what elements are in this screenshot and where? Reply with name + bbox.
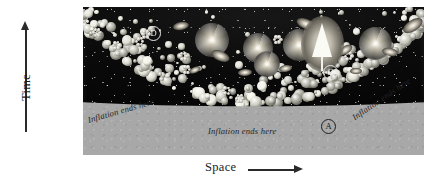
particle-cluster-node: [116, 46, 120, 50]
particle-cluster-node: [140, 43, 143, 46]
particle: [305, 92, 315, 102]
particle: [236, 50, 240, 54]
particle-cluster-node: [186, 65, 189, 68]
particle-cluster-node: [137, 43, 140, 46]
particle: [143, 56, 152, 65]
galaxy-spiral: [254, 51, 280, 77]
particle: [327, 82, 336, 91]
callout-label-a: A: [321, 119, 336, 134]
particle: [165, 41, 172, 48]
particle: [277, 93, 283, 99]
light-cone-icon: [312, 23, 332, 57]
particle-cluster-node: [227, 92, 230, 95]
particle: [100, 22, 105, 27]
particle: [229, 96, 232, 99]
particle-cluster-node: [274, 41, 277, 44]
particle-cluster-node: [237, 100, 240, 103]
particle: [205, 93, 211, 99]
right-arrow-icon: [294, 165, 303, 173]
inflation-note-center: Inflation ends here: [208, 126, 276, 136]
particle: [158, 72, 161, 75]
particle-cluster-node: [97, 28, 101, 32]
callout-label-c: C: [323, 65, 338, 80]
particle: [113, 33, 117, 37]
particle: [191, 82, 194, 85]
particle: [221, 97, 229, 105]
particle: [120, 29, 126, 35]
particle: [157, 47, 161, 51]
space-axis-label: Space: [205, 160, 236, 175]
particle: [172, 86, 176, 90]
particle-cluster-node: [227, 87, 230, 90]
particle: [250, 96, 262, 108]
particle: [334, 83, 340, 89]
particle: [123, 57, 132, 66]
particle-cluster-node: [240, 94, 243, 97]
particle: [230, 88, 236, 94]
figure-canvas: Time D C B A Inflation ends here Inflati…: [0, 0, 442, 182]
particle: [178, 74, 186, 82]
particle: [174, 70, 178, 74]
particle: [310, 80, 318, 88]
particle: [353, 28, 360, 35]
particle: [178, 43, 185, 50]
diagram-panel: D C B A Inflation ends here Inflation en…: [83, 7, 424, 155]
particle: [90, 27, 94, 31]
particle: [84, 9, 93, 18]
particle: [129, 45, 139, 55]
time-axis-label: Time: [19, 58, 34, 118]
particle: [294, 81, 296, 83]
particle: [165, 73, 169, 77]
particle: [291, 93, 302, 104]
particle: [190, 90, 193, 93]
particle: [176, 62, 178, 64]
particle: [149, 19, 153, 23]
particle-cluster-node: [113, 46, 116, 49]
particle: [86, 20, 89, 23]
galaxy-arms: [254, 51, 280, 77]
particle: [133, 59, 137, 63]
particle-cluster-node: [277, 35, 281, 39]
space-axis-line: [248, 169, 296, 171]
particle-cluster-node: [94, 34, 97, 37]
particle: [122, 35, 132, 45]
particle: [246, 86, 251, 91]
particle: [401, 15, 407, 21]
callout-label-d: D: [146, 26, 161, 41]
particle: [202, 65, 206, 69]
particle: [119, 48, 128, 57]
particle: [319, 10, 323, 14]
